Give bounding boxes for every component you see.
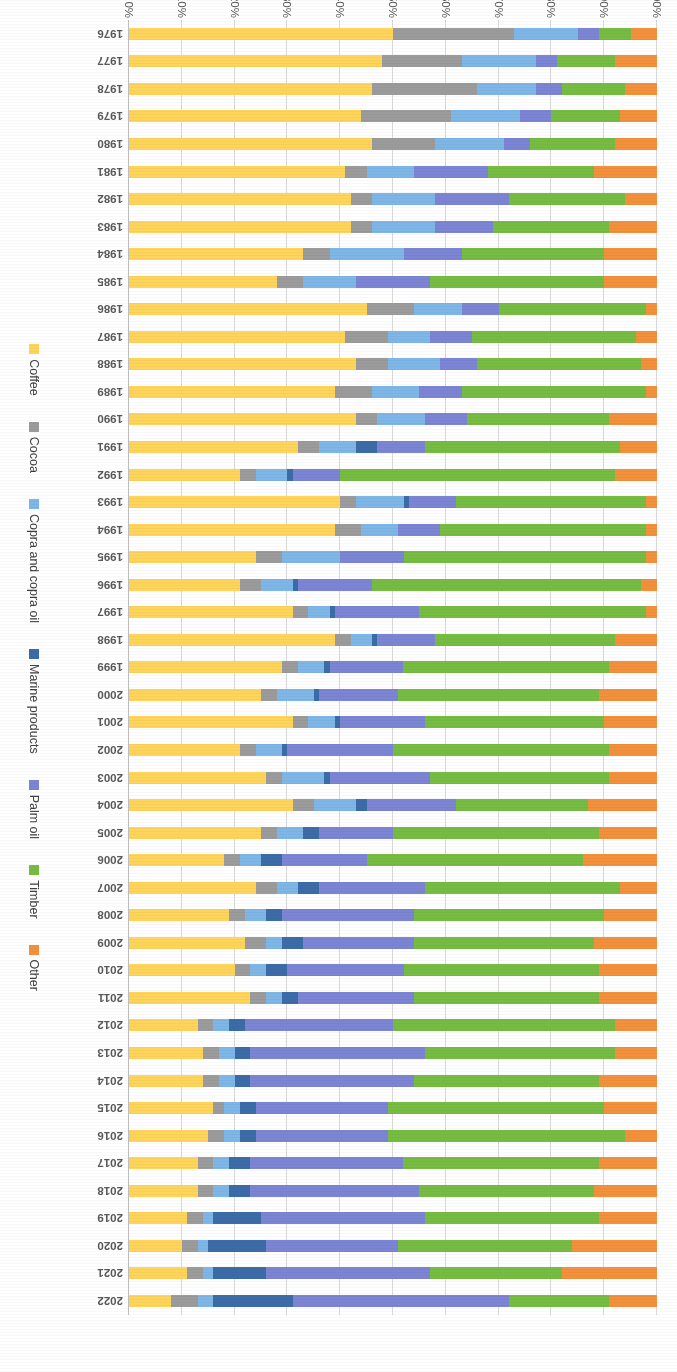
bar-segment	[604, 276, 657, 288]
bar-segment	[129, 579, 240, 591]
stacked-bar[interactable]	[129, 799, 657, 811]
legend-item[interactable]: Cocoa	[27, 422, 41, 473]
stacked-bar[interactable]	[129, 1267, 657, 1279]
stacked-bar[interactable]	[129, 551, 657, 563]
bar-segment	[287, 469, 292, 481]
bar-segment	[250, 992, 266, 1004]
stacked-bar[interactable]	[129, 1047, 657, 1059]
category-axis-tick-label: 1985	[97, 276, 123, 288]
bar-segment	[129, 1185, 198, 1197]
stacked-bar[interactable]	[129, 221, 657, 233]
bar-segment	[198, 1240, 209, 1252]
bar-segment	[129, 744, 240, 756]
stacked-bar[interactable]	[129, 909, 657, 921]
category-axis-tick-label: 1983	[97, 221, 123, 233]
stacked-bar[interactable]	[129, 772, 657, 784]
stacked-bar[interactable]	[129, 854, 657, 866]
bar-segment	[335, 524, 361, 536]
bar-segment	[171, 1295, 197, 1307]
stacked-bar[interactable]	[129, 193, 657, 205]
legend-item[interactable]: Marine products	[27, 649, 41, 754]
category-axis-tick-label: 2005	[97, 827, 123, 839]
bar-segment	[356, 413, 377, 425]
stacked-bar[interactable]	[129, 166, 657, 178]
bar-slot	[129, 1149, 657, 1177]
bar-segment	[345, 331, 387, 343]
stacked-bar[interactable]	[129, 358, 657, 370]
stacked-bar[interactable]	[129, 1019, 657, 1031]
stacked-bar[interactable]	[129, 413, 657, 425]
stacked-bar[interactable]	[129, 1212, 657, 1224]
stacked-bar[interactable]	[129, 138, 657, 150]
legend-item[interactable]: Coffee	[27, 344, 41, 396]
legend-item[interactable]: Copra and copra oil	[27, 499, 41, 623]
stacked-bar[interactable]	[129, 441, 657, 453]
stacked-bar[interactable]	[129, 1240, 657, 1252]
category-axis-tick-label: 2003	[97, 772, 123, 784]
bar-slot	[129, 406, 657, 434]
stacked-bar[interactable]	[129, 83, 657, 95]
bar-segment	[361, 524, 398, 536]
bar-segment	[425, 1212, 599, 1224]
stacked-bar[interactable]	[129, 1102, 657, 1114]
category-axis-slot: 1986	[65, 295, 125, 323]
stacked-bar[interactable]	[129, 937, 657, 949]
stacked-bar[interactable]	[129, 331, 657, 343]
bar-segment	[646, 303, 657, 315]
bar-segment	[393, 28, 514, 40]
stacked-bar[interactable]	[129, 110, 657, 122]
legend-item[interactable]: Other	[27, 945, 41, 991]
bar-segment	[583, 854, 657, 866]
stacked-bar[interactable]	[129, 827, 657, 839]
stacked-bar[interactable]	[129, 55, 657, 67]
stacked-bar[interactable]	[129, 716, 657, 728]
stacked-bar[interactable]	[129, 28, 657, 40]
bar-segment	[588, 799, 657, 811]
bar-segment	[282, 744, 287, 756]
stacked-bar[interactable]	[129, 524, 657, 536]
legend-label: Palm oil	[27, 795, 41, 839]
value-axis-tick-label: 100%	[651, 0, 663, 18]
bar-segment	[240, 1102, 256, 1114]
bar-segment	[229, 1019, 245, 1031]
legend-item[interactable]: Timber	[27, 865, 41, 918]
stacked-bar[interactable]	[129, 1295, 657, 1307]
stacked-bar[interactable]	[129, 386, 657, 398]
stacked-bar[interactable]	[129, 992, 657, 1004]
bar-segment	[203, 1212, 214, 1224]
bar-segment	[224, 1102, 240, 1114]
stacked-bar[interactable]	[129, 303, 657, 315]
bar-slot	[129, 736, 657, 764]
stacked-bar[interactable]	[129, 882, 657, 894]
stacked-bar[interactable]	[129, 496, 657, 508]
bar-segment	[398, 524, 440, 536]
stacked-bar[interactable]	[129, 579, 657, 591]
stacked-bar[interactable]	[129, 1157, 657, 1169]
stacked-bar[interactable]	[129, 634, 657, 646]
bar-segment	[620, 882, 657, 894]
bar-segment	[462, 55, 536, 67]
category-axis-slot: 1998	[65, 626, 125, 654]
bar-slot	[129, 709, 657, 737]
stacked-bar[interactable]	[129, 469, 657, 481]
stacked-bar[interactable]	[129, 964, 657, 976]
stacked-bar[interactable]	[129, 744, 657, 756]
bar-segment	[625, 193, 657, 205]
stacked-bar[interactable]	[129, 276, 657, 288]
stacked-bar[interactable]	[129, 606, 657, 618]
category-axis-slot: 1981	[65, 158, 125, 186]
category-axis-tick-label: 1990	[97, 413, 123, 425]
stacked-bar[interactable]	[129, 661, 657, 673]
bar-segment	[129, 248, 303, 260]
stacked-bar[interactable]	[129, 1130, 657, 1142]
bar-segment	[504, 138, 530, 150]
category-axis-slot: 1995	[65, 543, 125, 571]
bar-segment	[256, 551, 282, 563]
category-axis-slot: 2018	[65, 1177, 125, 1205]
legend-item[interactable]: Palm oil	[27, 780, 41, 839]
stacked-bar[interactable]	[129, 689, 657, 701]
bar-segment	[266, 964, 287, 976]
stacked-bar[interactable]	[129, 1075, 657, 1087]
stacked-bar[interactable]	[129, 248, 657, 260]
stacked-bar[interactable]	[129, 1185, 657, 1197]
